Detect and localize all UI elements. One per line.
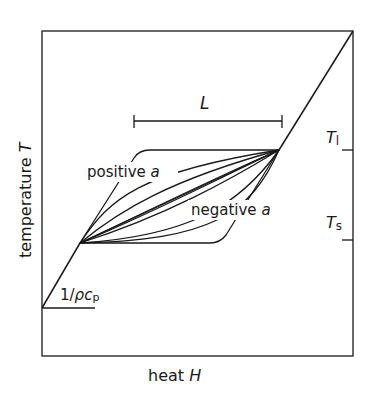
slope-label: 1/ρcp [60, 286, 99, 304]
plot-frame [42, 31, 353, 356]
latent-heat-bar [134, 115, 282, 128]
y-axis-label: temperature T [16, 141, 35, 258]
solidus-label: Ts [326, 213, 342, 233]
x-axis-label: heat H [148, 366, 201, 385]
positive-a-label: positive a [87, 163, 160, 181]
liquid-phase-line [279, 31, 353, 150]
negative-a-label: negative a [191, 201, 271, 219]
enthalpy-temperature-diagram: L Tl Ts positive a negative a 1/ρcp heat… [0, 0, 374, 394]
liquidus-label: Tl [326, 128, 339, 148]
latent-heat-label: L [200, 93, 209, 113]
